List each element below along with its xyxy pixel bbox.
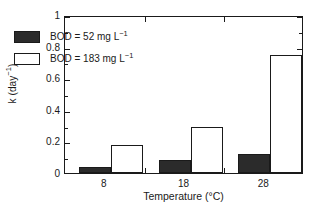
y-tick-major: [65, 80, 70, 81]
y-axis-label-superscript: −1: [4, 67, 13, 76]
y-tick-minor: [65, 96, 68, 97]
bar-light-8: [111, 145, 143, 173]
chart-legend: BOD = 52 mg L−1 BOD = 183 mg L−1: [14, 27, 164, 71]
y-tick-major-right: [297, 17, 302, 18]
x-tick-label: 28: [243, 178, 283, 190]
bar-light-28: [270, 55, 302, 174]
y-tick-label: 0.6: [34, 74, 60, 84]
x-tick: [145, 168, 146, 173]
legend-label-bod-52-superscript: −1: [119, 29, 128, 38]
y-tick-label: 0.4: [34, 106, 60, 116]
y-tick-minor-right: [299, 33, 302, 34]
x-tick-label: 8: [84, 178, 124, 190]
x-tick-label: 18: [164, 178, 204, 190]
legend-entry-bod-183: BOD = 183 mg L−1: [14, 49, 164, 68]
bar-chart-figure: k (day−1) 1 0.8 0.6 0.4 0.2 0: [0, 0, 327, 208]
legend-swatch-open-square: [14, 53, 40, 65]
legend-label-bod-183-superscript: −1: [125, 51, 134, 60]
x-axis-label: Temperature (°C): [64, 190, 303, 202]
legend-swatch-filled-square: [14, 31, 40, 43]
y-tick-major: [65, 17, 70, 18]
legend-label-bod-52: BOD = 52 mg L−1: [50, 31, 128, 42]
y-tick-minor: [65, 128, 68, 129]
y-axis-label-text: k (day: [7, 76, 18, 104]
x-tick-top: [224, 17, 225, 22]
y-tick-major-right: [297, 49, 302, 50]
y-tick-major: [65, 112, 70, 113]
bar-dark-8: [79, 167, 111, 173]
y-tick-label: 1: [34, 11, 60, 21]
legend-entry-bod-52: BOD = 52 mg L−1: [14, 27, 164, 46]
legend-label-bod-183-text: BOD = 183 mg L: [50, 53, 125, 64]
x-tick: [224, 168, 225, 173]
bar-light-18: [191, 127, 223, 173]
legend-label-bod-52-text: BOD = 52 mg L: [50, 31, 119, 42]
y-tick-label: 0: [34, 169, 60, 179]
y-tick-minor: [65, 159, 68, 160]
bar-dark-28: [238, 154, 270, 173]
y-tick-label: 0.2: [34, 137, 60, 147]
y-tick-major: [65, 143, 70, 144]
bar-dark-18: [159, 160, 191, 173]
x-tick-top: [145, 17, 146, 22]
legend-label-bod-183: BOD = 183 mg L−1: [50, 53, 133, 64]
